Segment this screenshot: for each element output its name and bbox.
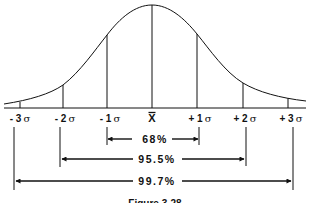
svg-text:68%: 68% [142,133,168,145]
label-minus-3-sigma: - 3σ [10,113,31,124]
range-95-5-percent: 95.5% [62,153,244,165]
label-minus-1-sigma: - 1σ [100,113,121,124]
svg-text:99.7%: 99.7% [138,175,175,187]
label-plus-1-sigma: + 1σ [188,113,211,124]
label-plus-3-sigma: + 3σ [279,113,302,124]
label-plus-2-sigma: + 2σ [233,113,256,124]
range-68-percent: 68% [108,133,198,145]
svg-text:X: X [148,112,156,124]
range-99-7-percent: 99.7% [16,175,291,187]
figure-caption: Figure 3-28 [128,198,182,203]
normal-distribution-diagram: - 3σ - 2σ - 1σ X + 1σ + 2σ + 3σ 68% 95.5… [0,0,310,203]
label-mean: X [148,112,156,124]
svg-text:95.5%: 95.5% [138,153,175,165]
label-minus-2-sigma: - 2σ [55,113,76,124]
bell-curve [4,5,306,104]
